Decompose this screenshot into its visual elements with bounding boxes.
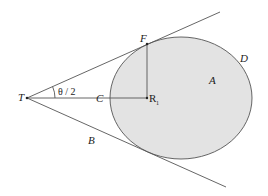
label-R-subscript: 1 [156,100,159,106]
point-T [26,97,29,100]
diagram-canvas: T F D A C B R 1 θ / 2 [0,0,268,196]
label-D: D [239,52,248,64]
angle-arc [53,87,55,98]
label-F: F [139,32,147,44]
label-angle-theta-half: θ / 2 [58,86,76,97]
label-B: B [88,134,95,146]
label-A: A [208,74,216,86]
label-C: C [96,92,104,104]
label-T: T [18,91,25,103]
point-R1 [146,97,148,99]
